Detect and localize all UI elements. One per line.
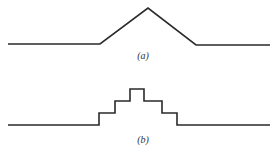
panel-b-caption: (b): [137, 134, 149, 145]
triangular-pulse-curve: [8, 8, 270, 45]
staircase-pulse-curve: [8, 89, 270, 125]
panel-a-caption: (a): [137, 50, 149, 61]
figure-canvas: [0, 0, 277, 156]
